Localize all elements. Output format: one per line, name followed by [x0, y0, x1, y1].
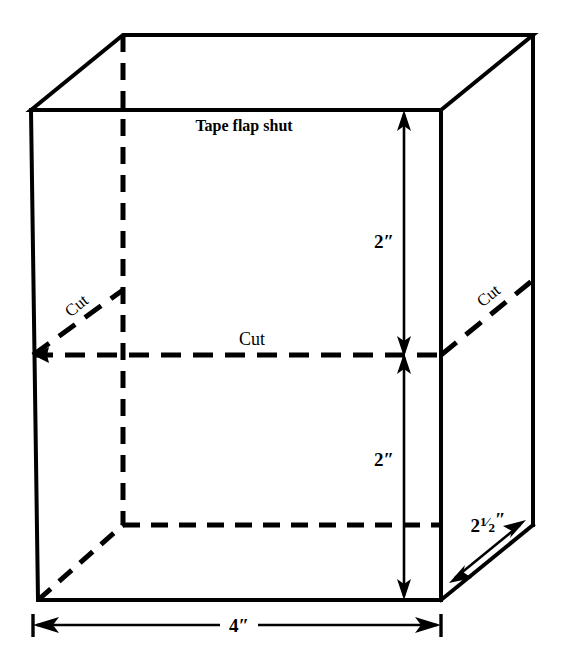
dimension-depth-line: [455, 525, 520, 578]
dimension-width-label: 4″: [229, 615, 249, 636]
tape-flap-label: Tape flap shut: [195, 117, 293, 135]
edge-right-bottom-diagonal: [441, 525, 533, 600]
dimension-depth: 21⁄2″: [449, 509, 526, 583]
cut-front-label: Cut: [239, 329, 265, 349]
dimension-depth-label: 21⁄2″: [470, 509, 505, 536]
edge-top-face: [31, 35, 533, 110]
dimension-upper-height-label: 2″: [374, 231, 394, 252]
hidden-edge-bottom-left-diagonal: [38, 525, 123, 600]
dimension-width: 4″: [33, 614, 441, 637]
diagram-canvas: 2″ 2″ 21⁄2″ 4″ Tape: [0, 0, 570, 652]
cut-path-group: [33, 280, 533, 355]
dimension-lower-height-label: 2″: [374, 449, 394, 470]
dimension-depth-unit: ″: [495, 509, 506, 530]
dimension-upper-height: 2″: [374, 110, 411, 357]
dimension-lower-height: 2″: [374, 353, 411, 600]
box-cutting-diagram: 2″ 2″ 21⁄2″ 4″ Tape: [0, 0, 570, 652]
dimension-depth-whole: 2: [470, 515, 480, 536]
